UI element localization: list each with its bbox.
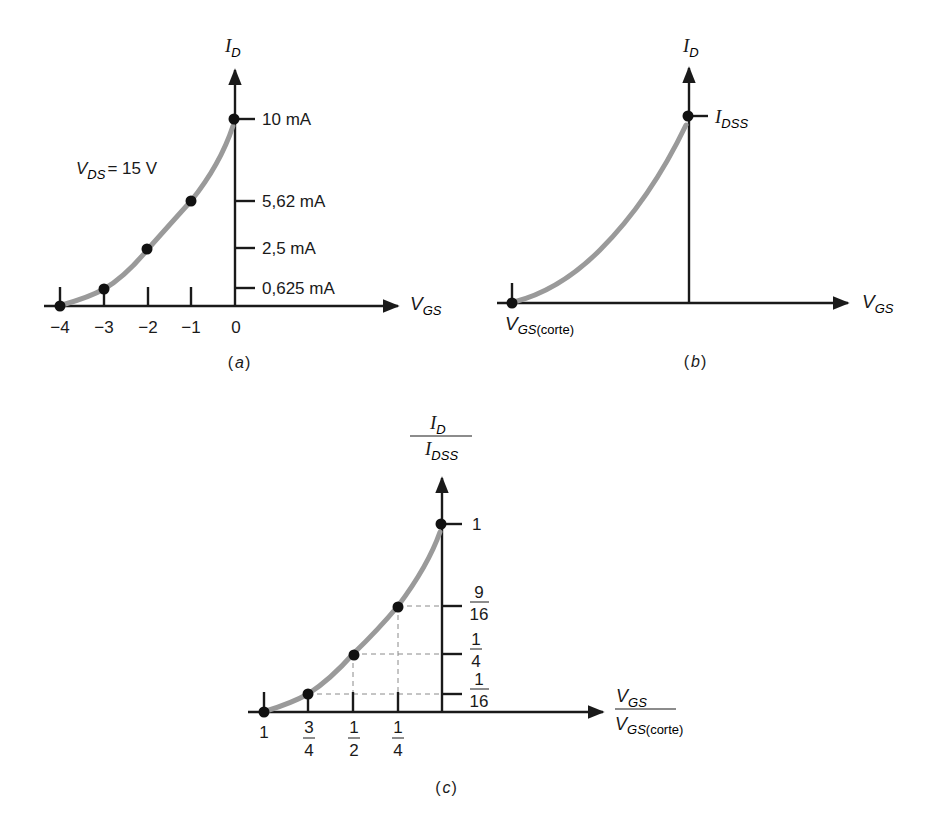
chart-a: ID VGS VDS= 15 V −4 −3 −2 −1 0 0,625 mA …	[44, 35, 442, 371]
x-tick-label: 3 4	[303, 718, 315, 760]
data-point	[55, 301, 66, 312]
x-axis-label: VGS	[862, 291, 894, 316]
y-axis-label: ID	[224, 35, 241, 60]
transfer-curve	[62, 126, 233, 305]
x-tick-label: 1	[259, 723, 268, 742]
data-point	[142, 244, 153, 255]
figure-canvas: ID VGS VDS= 15 V −4 −3 −2 −1 0 0,625 mA …	[0, 0, 932, 818]
chart-c: ID IDSS VGS VGS(corte) 1 3 4 1	[248, 412, 683, 796]
svg-text:1: 1	[349, 718, 358, 737]
caption-a: (a)	[228, 354, 251, 371]
svg-text:IDSS: IDSS	[424, 438, 458, 463]
y-ticks	[442, 524, 462, 694]
transfer-curve	[514, 125, 686, 302]
idss-point	[683, 111, 694, 122]
y-tick-label: 9 16	[470, 583, 489, 624]
cutoff-point	[507, 298, 518, 309]
x-ticks	[264, 692, 398, 712]
data-points	[55, 114, 240, 312]
x-tick-label: 0	[231, 318, 240, 337]
x-axis-label: VGS VGS(corte)	[615, 686, 683, 737]
svg-text:9: 9	[474, 583, 483, 602]
x-tick-label: −3	[94, 318, 113, 337]
x-tick-label: 1 4	[392, 718, 404, 760]
x-tick-label: −1	[181, 318, 200, 337]
svg-text:1: 1	[393, 718, 402, 737]
svg-text:1: 1	[471, 630, 480, 649]
svg-text:16: 16	[470, 692, 489, 711]
svg-text:2: 2	[349, 741, 358, 760]
svg-text:4: 4	[471, 652, 480, 671]
data-point	[99, 284, 110, 295]
data-point	[393, 602, 404, 613]
svg-text:ID: ID	[429, 412, 446, 437]
svg-text:4: 4	[393, 741, 402, 760]
caption-c: (c)	[435, 779, 457, 796]
y-ticks	[235, 119, 255, 288]
y-tick-label: 0,625 mA	[262, 279, 335, 298]
y-tick-label: 10 mA	[262, 110, 312, 129]
data-point	[349, 650, 360, 661]
y-tick-label: 1 16	[470, 670, 489, 711]
x-tick-label: −4	[50, 318, 69, 337]
svg-text:16: 16	[470, 605, 489, 624]
svg-text:VGS(corte): VGS(corte)	[615, 714, 683, 737]
y-tick-label: 1 4	[470, 630, 482, 671]
x-tick-label: 1 2	[348, 718, 360, 760]
data-point	[229, 114, 240, 125]
data-point	[186, 196, 197, 207]
x-axis-label: VGS	[410, 293, 442, 318]
y-tick-label: 2,5 mA	[262, 239, 317, 258]
idss-label: IDSS	[714, 106, 748, 131]
chart-b: ID VGS IDSS VGS(corte) (b)	[497, 35, 894, 370]
data-point	[303, 689, 314, 700]
x-tick-label: −2	[138, 318, 157, 337]
data-points	[259, 519, 447, 718]
y-tick-label: 1	[472, 515, 481, 534]
y-axis-label: ID	[682, 35, 699, 60]
data-point	[436, 519, 447, 530]
svg-text:4: 4	[304, 741, 313, 760]
vds-annotation: VDS= 15 V	[76, 159, 158, 182]
data-point	[259, 707, 270, 718]
caption-b: (b)	[684, 353, 707, 370]
cutoff-label: VGS(corte)	[505, 313, 574, 337]
y-axis-label: ID IDSS	[410, 412, 472, 463]
svg-text:VGS: VGS	[616, 686, 647, 710]
guide-lines	[308, 606, 442, 712]
x-ticks	[60, 287, 191, 306]
svg-text:1: 1	[474, 670, 483, 689]
y-tick-label: 5,62 mA	[262, 192, 326, 211]
svg-text:3: 3	[304, 718, 313, 737]
